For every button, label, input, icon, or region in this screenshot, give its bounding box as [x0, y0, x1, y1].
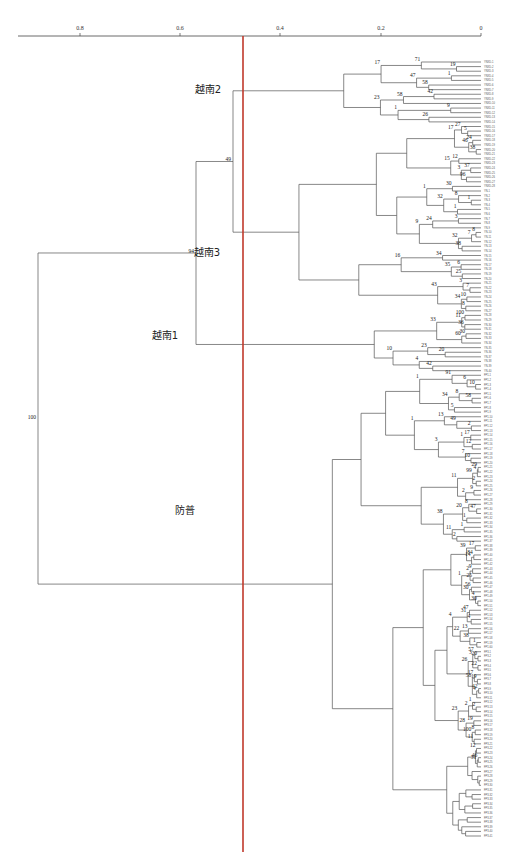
leaf-label: FP1-11 [484, 419, 493, 423]
leaf-label: FP3-9 [484, 687, 492, 691]
leaf-label: YN-16 [484, 258, 492, 262]
leaf-label: YN-39 [484, 364, 492, 368]
leaf-label: YN-12 [484, 240, 492, 244]
leaf-label: YNXD-26 [484, 175, 496, 179]
leaf-label: YN-20 [484, 277, 492, 281]
leaf-label: YNXD-21 [484, 152, 496, 156]
node-support: 3 [458, 164, 461, 170]
leaf-label: FP3-12 [484, 700, 493, 704]
leaf-label: YNXD-23 [484, 161, 496, 165]
node-support: 14 [465, 551, 471, 557]
leaf-label: YN-3 [484, 198, 490, 202]
node-support: 38 [456, 240, 462, 246]
node-support: 9 [447, 102, 450, 108]
node-support: 23 [421, 342, 427, 348]
leaf-label: FP3-32 [484, 793, 493, 797]
node-support: 23 [374, 94, 380, 100]
leaf-label: FP3-3 [484, 659, 492, 663]
node-support: 22 [471, 660, 477, 666]
node-support: 1 [463, 512, 466, 518]
leaf-label: YN-19 [484, 272, 492, 276]
leaf-label: YN-6 [484, 212, 490, 216]
leaf-label: FP3-26 [484, 765, 493, 769]
node-support: 26 [422, 111, 428, 117]
node-support: 4 [474, 464, 477, 470]
node-support: 2 [468, 420, 471, 426]
node-support: 49 [450, 415, 456, 421]
leaf-label: YN-5 [484, 207, 490, 211]
leaf-label: FP3-41 [484, 834, 493, 838]
leaf-label: FP3-4 [484, 664, 492, 668]
leaf-label: FP1-4 [484, 387, 492, 391]
node-support: 3 [435, 436, 438, 442]
leaf-label: YNXD-28 [484, 184, 496, 188]
leaf-label: YNXD-6 [484, 83, 494, 87]
node-support: 10 [460, 291, 466, 297]
leaf-label: FP1-7 [484, 401, 492, 405]
leaf-label: YNXD-19 [484, 143, 496, 147]
leaf-label: YNXD-1 [484, 60, 494, 64]
node-support-labels: 1971158471742589261235272438461712379631… [28, 56, 478, 760]
node-support: 15 [444, 155, 450, 161]
leaf-label: FP1-40 [484, 553, 493, 557]
node-support: 31 [461, 607, 467, 613]
node-support: 100 [463, 726, 472, 732]
node-support: 2 [472, 475, 475, 481]
leaf-label: YNXD-25 [484, 171, 496, 175]
leaf-label: FP1-58 [484, 636, 493, 640]
leaf-label: YN-38 [484, 359, 492, 363]
node-support: 8 [471, 724, 474, 730]
node-support: 4 [473, 685, 476, 691]
node-support: 38 [470, 144, 476, 150]
leaf-label: FP1-2 [484, 378, 492, 382]
leaf-label: YNXD-27 [484, 180, 496, 184]
leaf-label: FP1-57 [484, 631, 493, 635]
leaf-label: FP3-2 [484, 654, 492, 658]
leaf-label: FP3-24 [484, 756, 493, 760]
node-support: 9 [469, 563, 472, 569]
node-support: 31 [471, 754, 477, 760]
leaf-label: FP3-15 [484, 714, 493, 718]
leaf-label: YNXD-24 [484, 166, 496, 170]
node-support: 7 [468, 229, 471, 235]
leaf-label: FP1-24 [484, 479, 493, 483]
leaf-label: YNXD-8 [484, 92, 494, 96]
node-support: 3 [459, 277, 462, 283]
node-support: 12 [466, 438, 472, 444]
leaf-label: YNXD-20 [484, 148, 496, 152]
leaf-label: YN-35 [484, 346, 492, 350]
node-support: 58 [422, 79, 428, 85]
node-support: 19 [450, 61, 456, 67]
leaf-label: YN-1 [484, 189, 490, 193]
leaf-label: FP3-30 [484, 783, 493, 787]
node-support: 100 [28, 414, 37, 420]
node-support: 17 [469, 540, 475, 546]
leaf-label: FP3-14 [484, 710, 493, 714]
axis-tick-label: 0.6 [176, 25, 184, 31]
axis-tick-label: 0 [480, 25, 483, 31]
node-support: 49 [226, 156, 232, 162]
leaf-label: FP1-18 [484, 452, 493, 456]
leaf-label: FP3-36 [484, 811, 493, 815]
leaf-label: YN-26 [484, 304, 492, 308]
leaf-label: YN-33 [484, 336, 492, 340]
leaf-label: FP3-38 [484, 820, 493, 824]
node-support: 39 [460, 542, 466, 548]
leaf-label: FP1-44 [484, 571, 493, 575]
leaf-label: FP3-25 [484, 760, 493, 764]
leaf-label: YNXD-2 [484, 65, 494, 69]
node-support: 32 [452, 232, 458, 238]
node-support: 2 [462, 487, 465, 493]
node-support: 71 [415, 56, 421, 62]
node-support: 3 [469, 649, 472, 655]
leaf-label: FP3-1 [484, 650, 492, 654]
leaf-label: FP1-35 [484, 530, 493, 534]
leaf-label: YN-17 [484, 263, 492, 267]
leaf-label: FP1-1 [484, 373, 492, 377]
leaf-label: FP3-16 [484, 719, 493, 723]
node-support: 4 [467, 613, 470, 619]
leaf-label: YNXD-9 [484, 97, 494, 101]
node-support: 1 [460, 431, 463, 437]
node-support: 42 [426, 360, 432, 366]
node-support: 1 [468, 194, 471, 200]
